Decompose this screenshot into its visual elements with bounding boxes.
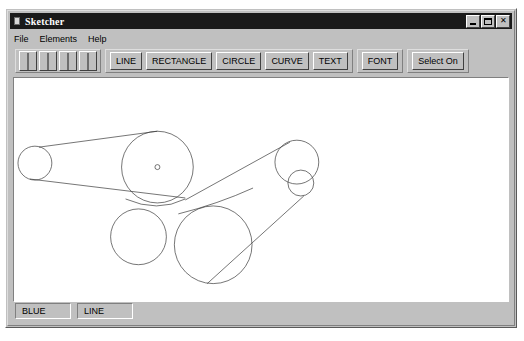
menu-bar: File Elements Help (10, 31, 512, 46)
belt-upper-left[interactable] (39, 131, 158, 147)
select-toggle-button[interactable]: Select On (412, 52, 464, 70)
pulley-large-center[interactable] (122, 131, 194, 203)
menu-item-elements[interactable]: Elements (40, 34, 78, 44)
pulley-bottom-left[interactable] (111, 209, 167, 265)
belt-arc-right-join[interactable] (178, 188, 253, 214)
maximize-icon (484, 18, 492, 25)
color-swatch-group (15, 49, 101, 73)
select-button-group: Select On (407, 49, 469, 73)
document-icon (13, 17, 22, 26)
minimize-icon (470, 23, 476, 25)
status-element: LINE (77, 303, 133, 319)
drawing-canvas[interactable] (13, 77, 509, 302)
color-swatch-gray[interactable] (59, 51, 77, 71)
belt-upper-right[interactable] (185, 142, 290, 200)
minimize-button[interactable] (466, 15, 480, 28)
status-bar: BLUE LINE (10, 299, 512, 323)
window-controls: ✕ (466, 15, 511, 28)
color-swatch-white[interactable] (39, 51, 57, 71)
circle-button[interactable]: CIRCLE (216, 52, 261, 70)
font-button[interactable]: FONT (362, 52, 399, 70)
curve-button[interactable]: CURVE (265, 52, 308, 70)
window-title: Sketcher (25, 16, 64, 27)
line-button[interactable]: LINE (110, 52, 142, 70)
sketcher-window: Sketcher ✕ File Elements (5, 8, 517, 328)
rectangle-button[interactable]: RECTANGLE (146, 52, 212, 70)
center-mark-large-center[interactable] (155, 165, 160, 170)
title-bar[interactable]: Sketcher ✕ (10, 13, 512, 29)
menu-item-help[interactable]: Help (88, 34, 107, 44)
pulley-right-small[interactable] (288, 170, 314, 196)
swatch-chip (67, 53, 69, 70)
belt-lower-right[interactable] (207, 196, 304, 284)
belt-lower-left[interactable] (30, 179, 185, 198)
desktop-background: Sketcher ✕ File Elements (0, 0, 524, 341)
window-inner-frame: Sketcher ✕ File Elements (7, 10, 515, 326)
swatch-chip (87, 53, 89, 70)
pulley-bottom-right[interactable] (174, 206, 252, 284)
text-button[interactable]: TEXT (313, 52, 348, 70)
pulley-small-left[interactable] (18, 146, 52, 180)
element-button-group: LINE RECTANGLE CIRCLE CURVE TEXT (105, 49, 353, 73)
sketch-drawing[interactable] (14, 78, 508, 301)
color-swatch-dark[interactable] (79, 51, 97, 71)
status-color: BLUE (15, 303, 71, 319)
belt-arc-center-bottom[interactable] (126, 199, 186, 206)
menu-item-file[interactable]: File (14, 34, 29, 44)
swatch-chip (47, 53, 49, 70)
font-button-group: FONT (357, 49, 404, 73)
color-swatch-black[interactable] (19, 51, 37, 71)
maximize-button[interactable] (481, 15, 495, 28)
toolbar: LINE RECTANGLE CIRCLE CURVE TEXT FONT Se… (10, 47, 512, 75)
close-icon: ✕ (497, 16, 509, 27)
close-button[interactable]: ✕ (496, 15, 510, 28)
swatch-chip (27, 53, 29, 70)
